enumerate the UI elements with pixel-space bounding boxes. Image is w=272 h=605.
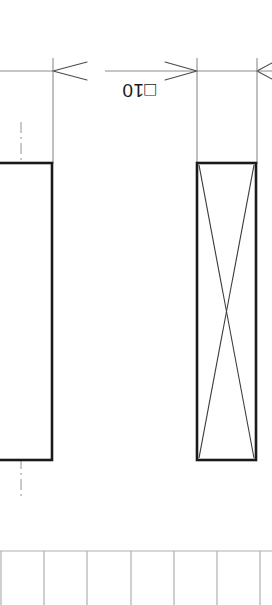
bottom-grid	[0, 551, 272, 605]
dimension-text-group: □10	[122, 80, 156, 101]
arrow-left-at-53	[53, 62, 87, 80]
left-rectangle-outline	[0, 163, 52, 460]
extension-lines-group	[53, 58, 257, 164]
drawing-svg: □10	[0, 0, 272, 605]
left-rectangle	[0, 163, 52, 460]
technical-drawing-canvas: □10	[0, 0, 272, 605]
right-rectangle	[197, 163, 256, 460]
dimension-label: □10	[122, 80, 156, 101]
